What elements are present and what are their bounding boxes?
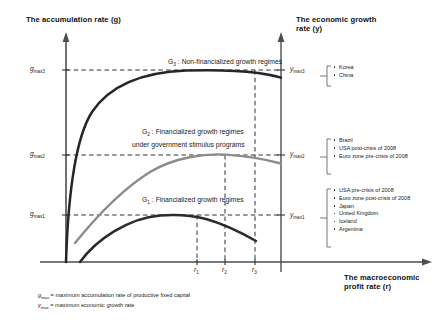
legend-item: China — [333, 72, 437, 80]
legend-group-ymax3: Korea China — [333, 64, 437, 80]
legend-item: USA pre-crisis of 2008 — [333, 187, 437, 195]
curve-g1 — [80, 215, 256, 262]
curves — [66, 70, 281, 262]
tick-marks — [62, 70, 285, 265]
tick-label-gmax2: gmax2 — [30, 150, 45, 160]
legend-item: Euro zone pre-crisis of 2008 — [333, 153, 437, 161]
legend-group-ymax2: Brazil USA post-crisis of 2008 Euro zone… — [333, 137, 437, 160]
legend-item: Argentina — [333, 226, 437, 234]
x-axis — [40, 259, 432, 266]
tick-label-ymax3: ymax3 — [290, 65, 305, 75]
legend-brackets — [320, 66, 331, 247]
curve-label-g3: G3 : Non-financialized growth regimes — [168, 58, 282, 68]
legend-group-ymax1: USA pre-crisis of 2008 Euro zone post-cr… — [333, 187, 437, 234]
x-axis-title: The macroeconomic profit rate (r) — [344, 274, 436, 292]
right-axis-title: The economic growth rate (y) — [296, 16, 392, 34]
bracket-ymax3 — [327, 66, 331, 86]
bracket-ymax2 — [327, 139, 331, 174]
tick-label-ymax1: ymax1 — [290, 211, 305, 221]
left-axis-title: The accumulation rate (g) — [26, 16, 126, 25]
curve-label-g2-line2: under government stimulus programs — [132, 141, 245, 149]
tick-label-r3: r3 — [252, 266, 257, 276]
curve-label-g2: G2 : Financialized growth regimes — [142, 128, 244, 138]
peak-guides — [197, 70, 255, 262]
tick-label-r2: r2 — [222, 266, 227, 276]
legend-item: Brazil — [333, 137, 437, 145]
tick-label-r1: r1 — [194, 266, 199, 276]
tick-label-gmax3: gmax3 — [30, 65, 45, 75]
legend-item: Iceland — [333, 218, 437, 226]
footnote-ymax: ymax = maximum economic growth rate — [38, 301, 298, 312]
bracket-ymax1 — [327, 189, 331, 247]
legend-item: USA post-crisis of 2008 — [333, 145, 437, 153]
curve-g3 — [66, 70, 281, 262]
tick-label-gmax1: gmax1 — [30, 210, 45, 220]
legend-item: Japan — [333, 203, 437, 211]
legend-item: Korea — [333, 64, 437, 72]
legend-item: Euro zone post-crisis of 2008 — [333, 195, 437, 203]
tick-label-ymax2: ymax2 — [290, 150, 305, 160]
curve-label-g1: G1 : Financialized growth regimes — [142, 196, 244, 206]
legend-item: United Kingdom — [333, 210, 437, 218]
